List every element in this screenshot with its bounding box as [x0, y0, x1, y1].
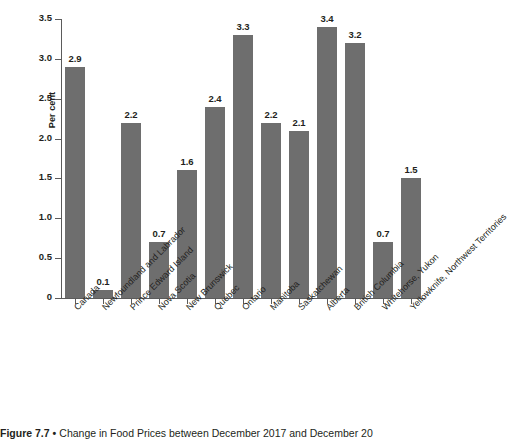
bar-value-label: 1.5 [404, 164, 417, 175]
bar-value-label: 2.4 [208, 93, 221, 104]
bar-value-label: 3.3 [236, 21, 249, 32]
bar-value-label: 0.7 [152, 228, 165, 239]
y-axis-tick: 1.5 [55, 178, 61, 179]
bar-value-label: 1.6 [180, 156, 193, 167]
y-axis-tick-label: 0 [47, 291, 52, 302]
bar-value-label: 0.7 [376, 228, 389, 239]
y-axis-tick-label: 2.5 [39, 92, 52, 103]
bar: 3.4 [317, 27, 337, 298]
figure-number: Figure 7.7 [0, 427, 50, 439]
bar: 2.9 [65, 67, 85, 298]
bar-value-label: 2.2 [264, 109, 277, 120]
bar-value-label: 2.1 [292, 117, 305, 128]
y-axis-tick: 3.0 [55, 59, 61, 60]
bar: 2.1 [289, 131, 309, 298]
y-axis-tick: 2.0 [55, 139, 61, 140]
y-axis-tick: 0.5 [55, 258, 61, 259]
bar-value-label: 2.9 [68, 53, 81, 64]
bar: 3.2 [345, 43, 365, 298]
bar-value-label: 2.2 [124, 109, 137, 120]
y-axis-tick-label: 0.5 [39, 251, 52, 262]
y-axis-tick: 2.5 [55, 99, 61, 100]
bar: 3.3 [233, 35, 253, 298]
y-axis-tick-label: 2.0 [39, 132, 52, 143]
y-axis-tick-label: 1.5 [39, 171, 52, 182]
y-axis-tick-label: 3.5 [39, 12, 52, 23]
y-axis-tick-label: 1.0 [39, 211, 52, 222]
y-axis-tick: 3.5 [55, 19, 61, 20]
bar-value-label: 3.4 [320, 13, 333, 24]
plot-area: 00.51.01.52.02.53.03.52.90.12.20.71.62.4… [61, 19, 425, 298]
caption-separator: • [50, 427, 60, 439]
figure-caption: Figure 7.7•Change in Food Prices between… [0, 427, 434, 439]
y-axis-tick: 0 [55, 298, 61, 299]
y-axis-tick-label: 3.0 [39, 52, 52, 63]
y-axis-line [61, 19, 62, 298]
bar: 2.2 [261, 123, 281, 298]
y-axis-tick: 1.0 [55, 218, 61, 219]
bar-value-label: 3.2 [348, 29, 361, 40]
caption-text: Change in Food Prices between December 2… [59, 427, 372, 439]
bar-value-label: 0.1 [96, 276, 109, 287]
